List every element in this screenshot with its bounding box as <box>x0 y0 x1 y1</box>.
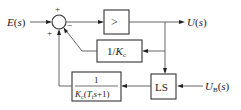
svg-text:UB(s): UB(s) <box>205 80 230 94</box>
comparator-block: > <box>104 10 129 34</box>
output-arrow-icon <box>179 20 185 24</box>
limit-switch-label: LS <box>155 81 168 93</box>
gain-to-junction-line <box>64 28 97 51</box>
setpoint-arrow-icon <box>177 84 183 88</box>
sign-minus-right: − <box>67 20 72 30</box>
gain-block: 1/Kc <box>97 40 142 62</box>
lag-input-arrow-icon <box>121 84 127 88</box>
lag-numerator: 1 <box>94 75 99 85</box>
lag-block: 1 Kc(Tis+1) <box>72 72 121 101</box>
comparator-label: > <box>111 15 118 29</box>
lag-to-junction-line <box>59 31 72 86</box>
sign-plus-top: + <box>55 4 60 14</box>
setpoint-signal-label: UB(s) <box>205 80 230 94</box>
svg-text:U(s): U(s) <box>187 16 207 29</box>
ls-top-arrow-icon <box>163 68 167 74</box>
input-arrow-icon <box>46 20 52 24</box>
input-signal-label: E(s) <box>6 16 26 29</box>
comparator-input-arrow-icon <box>98 20 104 24</box>
junction-plus-arrow-icon <box>57 29 61 35</box>
gain-input-arrow-icon <box>142 49 148 53</box>
sign-plus-bottom: + <box>47 28 52 38</box>
output-signal-label: U(s) <box>187 16 207 29</box>
svg-text:E(s): E(s) <box>6 16 26 29</box>
control-block-diagram: E(s) + + − > U(s) 1/Kc <box>0 0 241 110</box>
limit-switch-block: LS <box>151 74 176 99</box>
